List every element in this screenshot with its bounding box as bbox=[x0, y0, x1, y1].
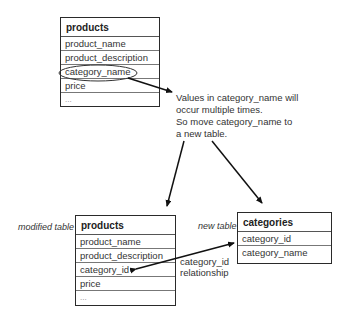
relationship-line: relationship bbox=[180, 267, 229, 278]
note-line: occur multiple times. bbox=[176, 104, 298, 116]
modified-products-table: products product_name product_descriptio… bbox=[75, 215, 176, 306]
original-products-table: products product_name product_descriptio… bbox=[60, 17, 160, 107]
column-category-id: category_id bbox=[238, 232, 331, 246]
column-more: ... bbox=[61, 93, 159, 107]
column-product-name: product_name bbox=[61, 37, 159, 51]
arrow-to-modified-table bbox=[167, 141, 184, 206]
column-category-id: category_id bbox=[76, 263, 175, 277]
explanation-note: Values in category_name will occur multi… bbox=[176, 92, 298, 140]
relationship-line: category_id bbox=[180, 256, 229, 267]
column-product-name: product_name bbox=[76, 235, 175, 249]
table-header: products bbox=[76, 216, 175, 235]
column-more: ... bbox=[76, 291, 175, 305]
note-line: So move category_name to bbox=[176, 116, 298, 128]
note-line: a new table. bbox=[176, 128, 298, 140]
categories-table: categories category_id category_name bbox=[237, 212, 332, 264]
column-category-name: category_name bbox=[61, 65, 159, 79]
table-header: products bbox=[61, 18, 159, 37]
arrow-to-new-table bbox=[212, 141, 262, 203]
modified-table-label: modified table bbox=[18, 222, 74, 232]
connector-overlay bbox=[0, 0, 358, 323]
column-category-name: category_name bbox=[238, 246, 331, 260]
column-product-description: product_description bbox=[61, 51, 159, 65]
column-product-description: product_description bbox=[76, 249, 175, 263]
table-header: categories bbox=[238, 213, 331, 232]
relationship-label: category_id relationship bbox=[180, 256, 229, 278]
note-line: Values in category_name will bbox=[176, 92, 298, 104]
new-table-label: new table bbox=[198, 221, 237, 231]
column-price: price bbox=[76, 277, 175, 291]
column-price: price bbox=[61, 79, 159, 93]
